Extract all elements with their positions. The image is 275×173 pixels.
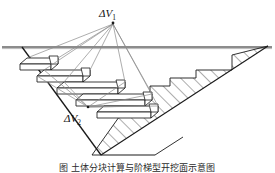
notch-1 bbox=[49, 56, 58, 64]
label-delta-v2: ΔV2 bbox=[63, 112, 81, 127]
figure-caption-group: 图 土体分块计算与阶梯型开挖面示意图 bbox=[59, 162, 215, 173]
label-delta-v1: ΔV1 bbox=[98, 7, 116, 22]
bench-4-top bbox=[76, 94, 152, 100]
figure-container: ΔV1 ΔV2 图 土体分块计算与阶梯型开挖面示意图 bbox=[0, 0, 275, 173]
trench-floor-return bbox=[155, 137, 183, 155]
bench-1-riser bbox=[20, 64, 51, 70]
v2-apex-dot bbox=[87, 106, 90, 109]
bench-5-riser bbox=[97, 112, 151, 118]
label-delta-v2-symbol: ΔV bbox=[63, 112, 78, 124]
label-delta-v1-subscript: 1 bbox=[112, 13, 116, 22]
ground-surface-group bbox=[2, 47, 272, 49]
notch-2 bbox=[81, 68, 90, 76]
v1-apex-dot bbox=[112, 22, 115, 25]
bench-5 bbox=[97, 106, 158, 118]
bench-3 bbox=[57, 82, 125, 94]
notch-5 bbox=[149, 104, 158, 112]
label-delta-v1-symbol: ΔV bbox=[98, 7, 113, 19]
v1-ray-6 bbox=[113, 24, 125, 82]
bench-2-riser bbox=[37, 76, 83, 82]
excavation-diagram: ΔV1 ΔV2 图 土体分块计算与阶梯型开挖面示意图 bbox=[0, 0, 275, 173]
label-delta-v2-subscript: 2 bbox=[77, 118, 81, 127]
bench-4 bbox=[76, 94, 152, 106]
label-delta-v2-group: ΔV2 bbox=[63, 112, 81, 127]
figure-caption: 图 土体分块计算与阶梯型开挖面示意图 bbox=[59, 162, 215, 173]
label-delta-v1-group: ΔV1 bbox=[98, 7, 116, 22]
